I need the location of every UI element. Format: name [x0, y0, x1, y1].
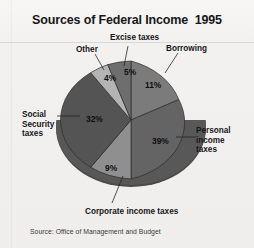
label-corporate-income-taxes: Corporate income taxes: [85, 207, 178, 217]
source-note: Source: Office of Management and Budget: [30, 228, 161, 235]
label-other: Other: [76, 45, 98, 55]
chart-title: Sources of Federal Income 1995: [0, 13, 254, 27]
label-borrowing: Borrowing: [166, 44, 207, 54]
label-excise-taxes: Excise taxes: [110, 33, 159, 43]
label-personal-income-taxes: Personal income taxes: [196, 126, 231, 155]
label-social-security-taxes: Social Security taxes: [22, 110, 54, 139]
